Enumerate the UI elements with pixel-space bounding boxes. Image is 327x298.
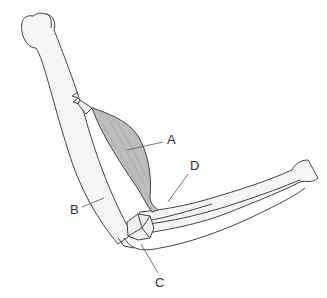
anatomy-diagram: A B C D — [0, 0, 327, 298]
label-a: A — [167, 133, 176, 146]
label-b: B — [70, 203, 79, 216]
leader-d — [168, 174, 188, 202]
label-d: D — [190, 159, 199, 172]
label-c: C — [155, 276, 164, 289]
leader-c — [141, 244, 158, 273]
arm-illustration — [0, 0, 327, 298]
